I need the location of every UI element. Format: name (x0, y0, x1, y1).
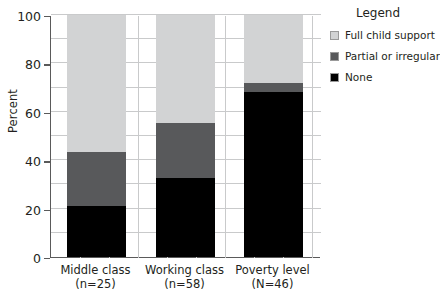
legend-label: Partial or irregular (345, 50, 440, 62)
y-tick-label: 20 (25, 202, 41, 217)
y-tick-label: 60 (25, 105, 41, 120)
bar-stack (244, 15, 303, 257)
bar-segment (244, 92, 303, 257)
y-tick-label: 40 (25, 154, 41, 169)
bar-segment (67, 152, 126, 206)
legend-label: None (345, 71, 372, 83)
bar-stack (67, 15, 126, 257)
legend-items: Full child supportPartial or irregularNo… (330, 29, 432, 83)
y-tick-mark (44, 16, 50, 17)
legend-swatch-icon (330, 52, 339, 61)
x-label-primary: Middle class (60, 263, 130, 277)
y-tick-mark (44, 64, 50, 65)
y-tick-mark (44, 258, 50, 259)
bar-stack (156, 15, 215, 257)
legend-swatch-icon (330, 31, 339, 40)
x-label-primary: Poverty level (235, 263, 310, 277)
legend-item[interactable]: Partial or irregular (330, 50, 432, 62)
legend: Legend Full child supportPartial or irre… (330, 6, 432, 92)
bar-segment (156, 178, 215, 257)
y-axis-title: Percent (6, 66, 20, 156)
y-tick-mark (44, 113, 50, 114)
legend-item[interactable]: Full child support (330, 29, 432, 41)
bar-segment (67, 15, 126, 152)
legend-item[interactable]: None (330, 71, 432, 83)
x-label-count: (N=46) (218, 278, 328, 292)
gridline-vertical (312, 16, 313, 258)
bar-segment (156, 15, 215, 123)
legend-label: Full child support (345, 29, 435, 41)
legend-title: Legend (330, 6, 426, 20)
y-tick-mark (44, 210, 50, 211)
gridline-vertical (138, 16, 139, 258)
x-label-primary: Working class (145, 263, 224, 277)
legend-swatch-icon (330, 73, 339, 82)
bar-segment (244, 83, 303, 93)
gridline-vertical (225, 16, 226, 258)
plot-area (50, 16, 320, 258)
y-tick-label: 80 (25, 57, 41, 72)
y-tick-label: 100 (17, 9, 41, 24)
bar-segment (156, 123, 215, 179)
y-tick-mark (44, 161, 50, 162)
bar-segment (67, 206, 126, 257)
x-axis-label: Poverty level(N=46) (218, 264, 328, 291)
bar-segment (244, 15, 303, 83)
